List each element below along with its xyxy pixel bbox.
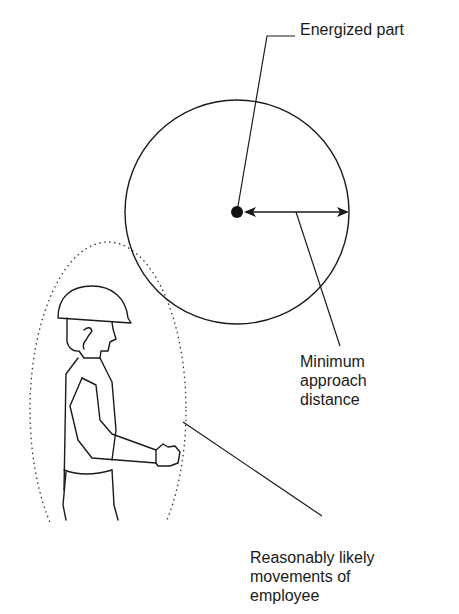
label-line: distance [300,390,367,409]
label-line: Minimum [300,352,367,371]
worker-figure [58,286,180,520]
label-line: Reasonably likely [250,548,375,567]
energized-part-text: Energized part [300,20,404,39]
energized-part-leader [237,36,295,212]
fist-icon [156,444,180,466]
reasonably-likely-movements-label: Reasonably likely movements of employee [250,548,375,605]
approach-distance-leader [296,212,340,346]
movements-leader [183,422,322,516]
hard-hat-icon [58,286,131,323]
energized-part-label: Energized part [300,20,404,39]
label-line: movements of [250,567,375,586]
approach-distance-diagram [0,0,459,614]
label-line: employee [250,586,375,605]
minimum-approach-distance-label: Minimum approach distance [300,352,367,409]
label-line: approach [300,371,367,390]
